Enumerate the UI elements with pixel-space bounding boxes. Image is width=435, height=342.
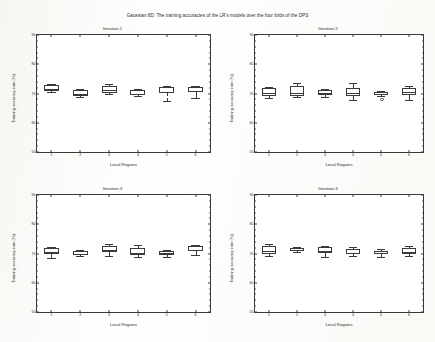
median-line [290, 250, 305, 251]
x-tick-label: 3 [108, 312, 110, 317]
y-minor-tick [209, 81, 210, 82]
y-minor-tick [37, 99, 38, 100]
median-line [374, 94, 389, 95]
y-minor-tick [209, 116, 210, 117]
y-tick-mark [208, 195, 210, 196]
y-tick-label: 80 [249, 222, 255, 226]
y-minor-tick [255, 306, 256, 307]
whisker-cap-lower [349, 256, 357, 257]
subplot-title: Iteration 4 [228, 186, 428, 191]
y-minor-tick [209, 87, 210, 88]
y-minor-tick [37, 294, 38, 295]
y-minor-tick [209, 128, 210, 129]
y-minor-tick [37, 116, 38, 117]
y-minor-tick [209, 46, 210, 47]
median-line [318, 93, 333, 94]
y-minor-tick [37, 40, 38, 41]
y-minor-tick [255, 52, 256, 53]
y-tick-mark [421, 152, 423, 153]
y-minor-tick [209, 230, 210, 231]
whisker-cap-lower [191, 98, 199, 99]
y-minor-tick [255, 75, 256, 76]
y-minor-tick [422, 87, 423, 88]
x-tick-label: 2 [296, 312, 298, 317]
box-plot-group [102, 35, 117, 152]
whisker-cap-lower [265, 98, 273, 99]
y-minor-tick [209, 105, 210, 106]
y-minor-tick [422, 105, 423, 106]
y-minor-tick [209, 271, 210, 272]
y-minor-tick [422, 70, 423, 71]
y-tick-mark [208, 93, 210, 94]
box-iqr [130, 248, 145, 254]
y-tick-mark [255, 93, 257, 94]
y-tick-mark [37, 224, 39, 225]
box-plot-group [374, 195, 389, 312]
whisker-cap-lower [105, 94, 113, 95]
whisker-cap-lower [321, 257, 329, 258]
y-tick-mark [208, 253, 210, 254]
box-plot-group [402, 195, 417, 312]
median-line [130, 253, 145, 254]
y-minor-tick [209, 200, 210, 201]
box-iqr [346, 88, 361, 96]
y-minor-tick [209, 40, 210, 41]
whisker-lower [167, 93, 168, 102]
y-minor-tick [37, 75, 38, 76]
x-tick-label: 6 [195, 152, 197, 157]
whisker-cap-lower [134, 257, 142, 258]
y-tick-mark [37, 312, 39, 313]
y-axis-label: Training accuracy rate (%) [8, 186, 18, 331]
y-minor-tick [37, 206, 38, 207]
y-minor-tick [209, 140, 210, 141]
y-minor-tick [255, 294, 256, 295]
subplot-title: Iteration 1 [10, 26, 215, 31]
y-tick-mark [37, 282, 39, 283]
x-tick-label: 5 [166, 312, 168, 317]
y-tick-mark [421, 64, 423, 65]
box-plot-group [130, 195, 145, 312]
y-minor-tick [255, 288, 256, 289]
y-minor-tick [422, 140, 423, 141]
y-tick-mark [421, 122, 423, 123]
median-line [73, 94, 88, 95]
box-plot-group [346, 35, 361, 152]
y-tick-mark [208, 64, 210, 65]
y-minor-tick [422, 81, 423, 82]
y-minor-tick [422, 276, 423, 277]
x-axis-label: Local Regions [36, 322, 211, 327]
y-minor-tick [209, 259, 210, 260]
y-minor-tick [209, 218, 210, 219]
whisker-cap-upper [134, 245, 142, 246]
x-tick-label: 4 [352, 152, 354, 157]
y-minor-tick [37, 111, 38, 112]
y-minor-tick [209, 58, 210, 59]
y-minor-tick [37, 247, 38, 248]
y-minor-tick [209, 306, 210, 307]
x-tick-label: 1 [268, 152, 270, 157]
y-minor-tick [209, 134, 210, 135]
y-tick-label: 60 [249, 121, 255, 125]
y-minor-tick [422, 300, 423, 301]
y-tick-mark [37, 195, 39, 196]
x-axis-label: Local Regions [254, 162, 424, 167]
y-minor-tick [37, 235, 38, 236]
y-minor-tick [255, 300, 256, 301]
y-minor-tick [209, 99, 210, 100]
box-plot-group [102, 195, 117, 312]
whisker-cap-lower [134, 96, 142, 97]
y-minor-tick [255, 265, 256, 266]
y-minor-tick [37, 134, 38, 135]
subplot-title: Iteration 3 [10, 186, 215, 191]
y-minor-tick [422, 46, 423, 47]
y-minor-tick [422, 75, 423, 76]
median-line [73, 254, 88, 255]
y-minor-tick [255, 200, 256, 201]
subplot-title: Iteration 2 [228, 26, 428, 31]
box-plot-group [290, 35, 305, 152]
whisker-cap-lower [293, 252, 301, 253]
y-minor-tick [209, 265, 210, 266]
median-line [346, 93, 361, 94]
whisker-cap-lower [349, 100, 357, 101]
median-line [402, 252, 417, 253]
